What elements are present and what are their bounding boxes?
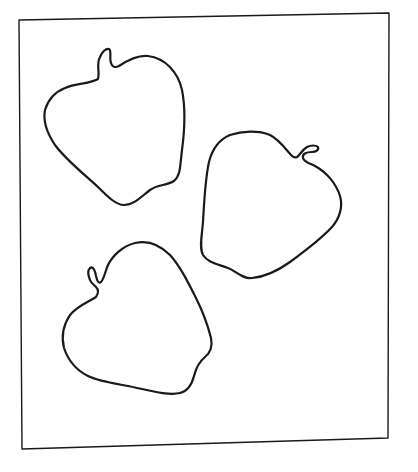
- frame-border: [19, 13, 389, 449]
- apple-middle-right-outline: [201, 132, 341, 278]
- apple-bottom-left-outline: [63, 242, 212, 394]
- drawing-canvas: [0, 0, 418, 472]
- apple-top-left-outline: [44, 49, 184, 205]
